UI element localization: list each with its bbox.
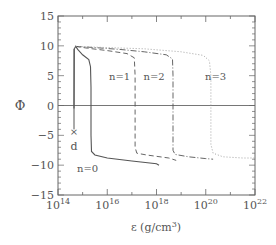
- annotation-label: d: [70, 140, 77, 153]
- y-tick-label: 15: [40, 10, 54, 23]
- series-n-2: [76, 46, 213, 159]
- x-tick-label: 10: [46, 199, 60, 212]
- x-tick-label: 10: [243, 199, 257, 212]
- series-label: n=2: [143, 71, 164, 82]
- x-tick-label: 10: [194, 199, 208, 212]
- cross-marker-icon: ×: [70, 126, 78, 137]
- y-axis-label: Φ: [15, 98, 26, 113]
- series-label: n=0: [77, 163, 98, 174]
- series-label: n=3: [205, 71, 226, 82]
- y-tick-label: 0: [47, 100, 54, 113]
- annotations: ×d: [70, 49, 78, 153]
- y-tick-label: −10: [31, 159, 54, 172]
- series: n=0n=1n=2n=3: [74, 46, 255, 174]
- x-tick-exponent: 14: [60, 197, 70, 206]
- series-label: n=1: [109, 71, 130, 82]
- x-tick-exponent: 16: [109, 197, 119, 206]
- y-tick-label: 5: [47, 70, 54, 83]
- x-tick-label: 10: [145, 199, 159, 212]
- x-tick-exponent: 22: [257, 197, 267, 206]
- y-tick-label: 10: [40, 40, 54, 53]
- y-tick-label: −5: [38, 129, 54, 142]
- series-n-3: [76, 46, 255, 158]
- x-tick-labels: 10141016101810201022: [46, 197, 267, 212]
- x-tick-exponent: 20: [208, 197, 218, 206]
- y-tick-labels: 151050−5−10−15: [31, 10, 54, 202]
- x-axis-label: ε (g/cm3): [131, 220, 181, 234]
- x-tick-exponent: 18: [159, 197, 169, 206]
- x-tick-label: 10: [95, 199, 109, 212]
- chart: 151050−5−10−15 10141016101810201022 n=0n…: [0, 0, 276, 245]
